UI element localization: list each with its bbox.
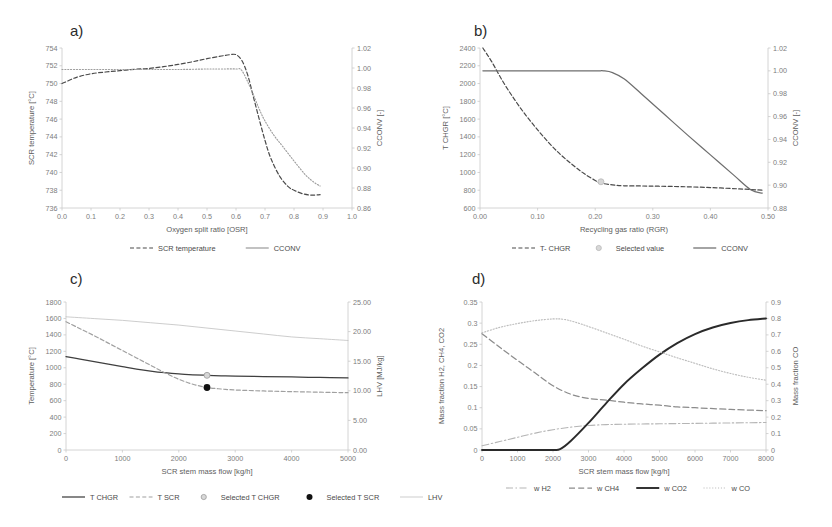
ytick-left: 754: [46, 44, 58, 53]
ytick-right: 0.92: [773, 158, 787, 167]
xtick: 0.4: [173, 212, 183, 221]
ytick-left: 736: [46, 204, 58, 213]
ytick-left: 2200: [460, 61, 476, 70]
x-axis-title: SCR stem mass flow [kg/h]: [161, 467, 252, 476]
xtick: 4000: [284, 454, 300, 463]
chart-panel-c: c)0200400600800100012001400160018000.005…: [0, 264, 416, 527]
legend-label: SCR temperature: [158, 244, 216, 253]
ytick-right: 0.94: [357, 124, 371, 133]
ytick-left: 746: [46, 115, 58, 124]
ytick-left: 1800: [46, 298, 62, 307]
xtick: 4000: [616, 454, 632, 463]
panel-label-b: b): [474, 22, 487, 39]
legend-label: Selected T CHGR: [221, 493, 280, 502]
ytick-left: 0.35: [464, 298, 478, 307]
ytick-right: 0.90: [773, 181, 787, 190]
ytick-left: 0.1: [468, 403, 478, 412]
ytick-right: 0.3: [771, 396, 781, 405]
xtick: 0.20: [588, 212, 602, 221]
xtick: 0.8: [289, 212, 299, 221]
xtick: 0.10: [531, 212, 545, 221]
ytick-left: 1800: [460, 97, 476, 106]
ytick-left: 0.15: [464, 382, 478, 391]
xtick: 0: [64, 454, 68, 463]
xtick: 3000: [227, 454, 243, 463]
xtick: 1.0: [347, 212, 357, 221]
ytick-right: 0.5: [771, 363, 781, 372]
chart-svg-c: 0200400600800100012001400160018000.005.0…: [0, 264, 416, 527]
xtick: 1000: [510, 454, 526, 463]
legend-label: T- CHGR: [540, 244, 570, 253]
series-line-cconv: [62, 69, 320, 186]
ytick-left: 744: [46, 132, 58, 141]
series-line-lhv: [66, 317, 348, 341]
y-axis-title-right: Mass fraction CO: [791, 347, 800, 406]
xtick: 0.3: [144, 212, 154, 221]
series-line-cconv: [483, 71, 762, 193]
xtick: 5000: [652, 454, 668, 463]
ytick-left: 748: [46, 97, 58, 106]
ytick-right: 0.98: [357, 84, 371, 93]
ytick-right: 0.86: [357, 204, 371, 213]
ytick-left: 2400: [460, 44, 476, 53]
ytick-left: 0: [58, 446, 62, 455]
y-axis-title-left: T CHGR [°C]: [441, 106, 450, 150]
y-axis-title-left: Mass fraction H2, CH4, CO2: [437, 328, 446, 424]
legend-b: T- CHGRSelected valueCCONV: [512, 244, 748, 253]
legend-d: w H2w CH4w CO2w CO: [506, 484, 750, 493]
xtick: 8000: [758, 454, 774, 463]
ytick-right: 0.96: [773, 112, 787, 121]
ytick-left: 752: [46, 61, 58, 70]
ytick-left: 1000: [46, 363, 62, 372]
ytick-left: 600: [50, 396, 62, 405]
xtick: 0.1: [86, 212, 96, 221]
marker-selected-value: [598, 179, 604, 185]
ytick-left: 0.05: [464, 424, 478, 433]
series-line-w-co2: [482, 318, 766, 450]
x-axis-title: SCR stem mass flow [kg/h]: [578, 467, 669, 476]
series-line-w-co: [482, 319, 766, 380]
ytick-left: 800: [50, 380, 62, 389]
xtick: 0.2: [115, 212, 125, 221]
xtick: 0.6: [231, 212, 241, 221]
chart-svg-d: 00.050.10.150.20.250.30.3500.10.20.30.40…: [416, 264, 832, 527]
ytick-right: 1.00: [357, 64, 371, 73]
xtick: 2000: [545, 454, 561, 463]
x-axis-title: Recycling gas ratio (RGR): [580, 225, 669, 234]
panel-label-d: d): [472, 270, 485, 287]
ytick-left: 200: [50, 429, 62, 438]
series-line-scr-temperature: [62, 54, 320, 195]
legend-label: Selected value: [616, 244, 664, 253]
ytick-right: 20.00: [353, 327, 371, 336]
ytick-right: 0.94: [773, 135, 787, 144]
ytick-left: 0.2: [468, 361, 478, 370]
ytick-right: 1.00: [773, 66, 787, 75]
series-line-t-scr: [66, 322, 348, 393]
ytick-right: 0.90: [357, 164, 371, 173]
ytick-left: 800: [464, 186, 476, 195]
ytick-left: 1600: [46, 314, 62, 323]
ytick-left: 1400: [460, 132, 476, 141]
xtick: 0.5: [202, 212, 212, 221]
ytick-left: 0.3: [468, 319, 478, 328]
marker-selected-t-scr: [204, 384, 211, 391]
xtick: 2000: [171, 454, 187, 463]
xtick: 0.50: [761, 212, 775, 221]
ytick-right: 0.9: [771, 298, 781, 307]
ytick-left: 1200: [460, 150, 476, 159]
ytick-right: 25.00: [353, 298, 371, 307]
legend-label: CCONV: [721, 244, 748, 253]
y-axis-title-right: LHV [MJ/kg]: [375, 355, 384, 396]
ytick-left: 738: [46, 186, 58, 195]
ytick-left: 0: [474, 446, 478, 455]
ytick-left: 742: [46, 150, 58, 159]
xtick: 1000: [114, 454, 130, 463]
ytick-left: 750: [46, 79, 58, 88]
xtick: 7000: [723, 454, 739, 463]
legend-label: T SCR: [158, 493, 180, 502]
ytick-right: 0.88: [773, 204, 787, 213]
ytick-right: 0.6: [771, 347, 781, 356]
ytick-right: 0.92: [357, 144, 371, 153]
xtick: 0.7: [260, 212, 270, 221]
y-axis-title-left: SCR temperature [°C]: [27, 91, 36, 165]
